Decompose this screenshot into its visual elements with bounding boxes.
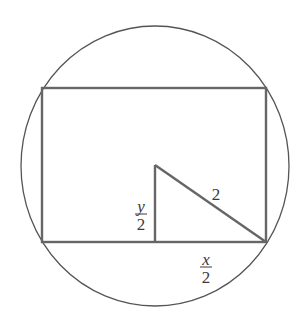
half-width-denominator: 2 bbox=[202, 268, 211, 287]
radius-label: 2 bbox=[212, 185, 221, 204]
half-width-label: x 2 bbox=[200, 250, 212, 287]
half-width-numerator: x bbox=[201, 250, 210, 269]
half-height-label: y 2 bbox=[135, 197, 147, 234]
inscribed-rectangle-diagram: y 2 2 x 2 bbox=[0, 0, 306, 322]
half-height-denominator: 2 bbox=[137, 215, 146, 234]
triangle-hypotenuse bbox=[155, 165, 266, 242]
half-height-numerator: y bbox=[135, 197, 145, 216]
